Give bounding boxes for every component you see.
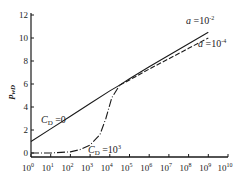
x-tick-label: 100 bbox=[22, 162, 34, 173]
y-tick-label: 10 bbox=[19, 33, 29, 43]
x-tick-label: 103 bbox=[81, 162, 93, 173]
x-tick-label: 105 bbox=[121, 162, 133, 173]
y-ticks: 024681012 bbox=[19, 10, 34, 158]
y-tick-label: 6 bbox=[24, 79, 29, 89]
x-tick-label: 102 bbox=[61, 162, 73, 173]
x-tick-label: 107 bbox=[160, 162, 172, 173]
y-tick-label: 0 bbox=[24, 148, 29, 158]
series-line-3 bbox=[120, 38, 209, 85]
y-tick-label: 8 bbox=[24, 56, 29, 66]
chart: 024681012 100101102103104105106107108109… bbox=[0, 0, 243, 183]
y-tick-label: 4 bbox=[24, 102, 29, 112]
x-tick-label: 101 bbox=[42, 162, 54, 173]
x-tick-label: 1010 bbox=[218, 162, 233, 173]
series-lines bbox=[31, 32, 208, 153]
annotation-cd0: CD =0 bbox=[41, 114, 66, 127]
x-tick-label: 109 bbox=[199, 162, 211, 173]
y-tick-label: 2 bbox=[24, 125, 29, 135]
y-tick-label: 12 bbox=[19, 10, 28, 20]
series-line-2 bbox=[120, 32, 209, 85]
annotation-a-1e-2: a =10-2 bbox=[186, 15, 214, 26]
x-tick-label: 104 bbox=[101, 162, 113, 173]
annotation-a-1e-4: a =10-4 bbox=[198, 38, 226, 49]
x-tick-label: 108 bbox=[180, 162, 192, 173]
annotation-cd1000: CD =103 bbox=[88, 144, 121, 157]
x-tick-label: 106 bbox=[140, 162, 152, 173]
y-axis-label: pwD bbox=[5, 85, 17, 100]
